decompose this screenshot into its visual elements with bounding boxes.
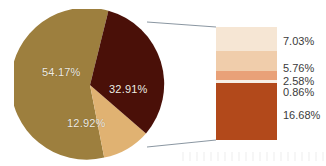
- bar-label-16: 16.68%: [283, 109, 320, 121]
- bar-label-5: 5.76%: [283, 62, 314, 74]
- pie-of-pie-chart: 54.17% 32.91% 12.92% 7.03% 5.76% 2.58% 0…: [0, 0, 326, 166]
- pie-chart: 54.17% 32.91% 12.92%: [14, 9, 166, 161]
- bar-segment-2: [216, 71, 277, 80]
- bar-segment-7: [216, 27, 277, 51]
- bar-segment-5: [216, 51, 277, 71]
- stacked-detail-bar: [216, 27, 277, 140]
- scan-artifact-row: [182, 152, 324, 161]
- bar-label-0: 0.86%: [283, 86, 314, 98]
- bar-label-7: 7.03%: [283, 35, 314, 47]
- pie-svg: [14, 9, 166, 161]
- bar-segment-16: [216, 83, 277, 140]
